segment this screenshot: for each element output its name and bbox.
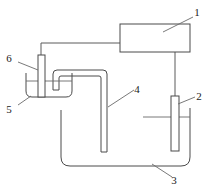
power-supply: [120, 24, 190, 52]
left-electrode: [38, 55, 45, 97]
label-3: 3: [171, 174, 177, 186]
right-electrode: [171, 96, 179, 151]
label-4: 4: [134, 83, 140, 95]
leader-line-2: [178, 97, 195, 104]
label-6: 6: [6, 52, 12, 64]
figure-container: 1 2 3 4 5 6: [0, 0, 210, 187]
label-5: 5: [6, 103, 12, 115]
small-beaker: [26, 73, 72, 97]
label-1: 1: [194, 6, 200, 18]
label-2: 2: [196, 90, 202, 102]
leader-line-5: [18, 96, 31, 105]
leader-line-4: [108, 90, 134, 107]
leader-line-6: [18, 62, 38, 70]
apparatus-diagram: 1 2 3 4 5 6: [0, 0, 210, 187]
left-wire: [41, 43, 130, 55]
